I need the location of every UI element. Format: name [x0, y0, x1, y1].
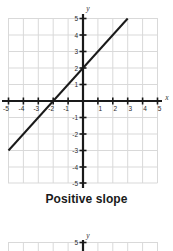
- y-tick-label: 4: [74, 32, 78, 39]
- x-tick-label: -3: [33, 105, 39, 112]
- page-root: -5 -4 -3 -2 -1 1 2 3 4 5 5 4 3 2 1 -1 -2…: [0, 0, 173, 251]
- x-tick-label: -5: [3, 105, 9, 112]
- x-tick-label: 2: [113, 105, 117, 112]
- y-axis-label: y: [85, 4, 90, 13]
- y-tick-label: 3: [74, 48, 78, 55]
- x-tick-label: -2: [48, 105, 54, 112]
- y-tick-label: 5: [74, 15, 78, 22]
- second-coordinate-plane-svg: y 5: [0, 228, 173, 251]
- x-tick-label: 1: [99, 105, 103, 112]
- y-tick-label: -1: [72, 114, 78, 121]
- x-tick-label: -1: [63, 105, 69, 112]
- x-tick-label: 5: [158, 105, 162, 112]
- y-tick-label: 1: [74, 81, 78, 88]
- y-tick-label: -5: [72, 180, 78, 187]
- x-tick-label: 3: [128, 105, 132, 112]
- x-axis-label: x: [164, 93, 169, 102]
- y-tick-label: -4: [72, 164, 78, 171]
- coordinate-plane-svg: -5 -4 -3 -2 -1 1 2 3 4 5 5 4 3 2 1 -1 -2…: [0, 0, 173, 192]
- positive-slope-graph: -5 -4 -3 -2 -1 1 2 3 4 5 5 4 3 2 1 -1 -2…: [0, 0, 173, 192]
- y-tick-label: -2: [72, 131, 78, 138]
- graph-caption: Positive slope: [0, 192, 173, 206]
- second-graph-partial: y 5: [0, 228, 173, 251]
- y-tick-label: 2: [74, 65, 78, 72]
- second-y-axis-label: y: [85, 231, 90, 240]
- x-tick-label: 4: [143, 105, 147, 112]
- caption-text: Positive slope: [45, 192, 127, 206]
- x-tick-label: -4: [19, 105, 25, 112]
- y-tick-label: -3: [72, 147, 78, 154]
- second-y-tick-label: 5: [74, 239, 78, 246]
